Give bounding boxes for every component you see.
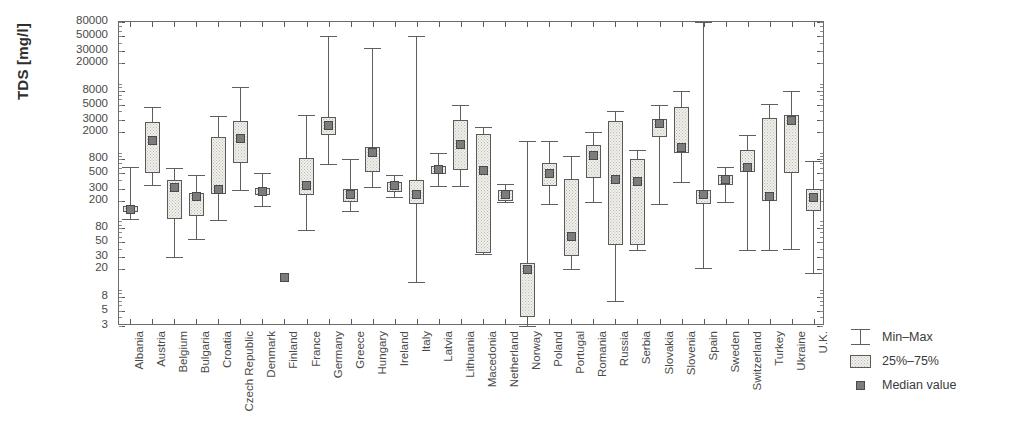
median-marker xyxy=(236,134,245,143)
box-plot-item[interactable] xyxy=(318,22,340,324)
median-marker xyxy=(324,121,333,130)
whisker-cap-min xyxy=(452,186,469,187)
box-plot-item[interactable] xyxy=(362,22,384,324)
x-tick-mark xyxy=(792,319,793,324)
box-plot-item[interactable] xyxy=(141,22,163,324)
box-plot-item[interactable] xyxy=(516,22,538,324)
x-tick-label: Ukraine xyxy=(796,331,808,371)
x-tick-label: Latvia xyxy=(443,331,455,362)
box-plot-item[interactable] xyxy=(737,22,759,324)
x-tick-mark xyxy=(814,319,815,324)
x-tick-label: Spain xyxy=(708,331,720,360)
box-plot-item[interactable] xyxy=(538,22,560,324)
legend-label-min-max: Min–Max xyxy=(882,330,933,344)
x-tick-mark xyxy=(549,319,550,324)
y-tick-label: 8 xyxy=(102,290,108,302)
box-plot-item[interactable] xyxy=(384,22,406,324)
legend-item-min-max: Min–Max xyxy=(848,325,1008,349)
x-tick-mark xyxy=(307,319,308,324)
box-plot-item[interactable] xyxy=(450,22,472,324)
whisker-cap-min xyxy=(497,202,514,203)
x-tick-mark xyxy=(726,319,727,324)
y-tick-label: 800 xyxy=(89,153,108,165)
whisker-cap-max xyxy=(607,111,624,112)
whisker-cap-max xyxy=(408,36,425,37)
median-marker xyxy=(809,193,818,202)
y-tick-label: 80 xyxy=(95,221,108,233)
quartile-box-icon xyxy=(848,351,874,371)
x-tick-label: Denmark xyxy=(266,331,278,378)
box-plot-item[interactable] xyxy=(229,22,251,324)
box-plot-item[interactable] xyxy=(185,22,207,324)
whisker-cap-min xyxy=(651,204,668,205)
box-plot-item[interactable] xyxy=(604,22,626,324)
box-plot-item[interactable] xyxy=(163,22,185,324)
whisker-cap-max xyxy=(122,167,139,168)
box-plot-item[interactable] xyxy=(759,22,781,324)
box-plot-item[interactable] xyxy=(671,22,693,324)
x-tick-mark xyxy=(483,319,484,324)
whisker-cap-max xyxy=(651,105,668,106)
box-plot-item[interactable] xyxy=(494,22,516,324)
x-tick-mark-top xyxy=(174,22,175,27)
x-tick-mark-top xyxy=(373,22,374,27)
x-tick-label: Croatia xyxy=(222,331,234,368)
box-plot-item[interactable] xyxy=(781,22,803,324)
x-tick-mark-top xyxy=(792,22,793,27)
whisker-cap-max xyxy=(585,132,602,133)
x-tick-mark-top xyxy=(770,22,771,27)
x-tick-mark-top xyxy=(505,22,506,27)
x-tick-mark xyxy=(395,319,396,324)
box-plot-item[interactable] xyxy=(715,22,737,324)
x-tick-mark-top xyxy=(571,22,572,27)
x-tick-mark-top xyxy=(593,22,594,27)
box-plot-item[interactable] xyxy=(251,22,273,324)
x-tick-mark xyxy=(130,319,131,324)
box-plot-item[interactable] xyxy=(472,22,494,324)
median-marker xyxy=(589,151,598,160)
x-tick-mark-top xyxy=(307,22,308,27)
x-tick-mark xyxy=(196,319,197,324)
whisker-cap-min xyxy=(144,185,161,186)
box-plot-item[interactable] xyxy=(273,22,295,324)
x-tick-label: Albania xyxy=(134,331,146,369)
whisker-cap-max xyxy=(320,36,337,37)
x-tick-mark xyxy=(439,319,440,324)
x-tick-label: Romania xyxy=(597,331,609,377)
x-tick-label: Sweden xyxy=(730,331,742,373)
x-tick-mark-top xyxy=(240,22,241,27)
whisker-cap-max xyxy=(254,173,271,174)
legend-label-quartiles: 25%–75% xyxy=(882,354,939,368)
box-plot-item[interactable] xyxy=(803,22,825,324)
box-plot-item[interactable] xyxy=(582,22,604,324)
box-plot-item[interactable] xyxy=(340,22,362,324)
whisker-cap-max xyxy=(563,156,580,157)
x-tick-mark xyxy=(527,319,528,324)
whisker-cap-max xyxy=(452,105,469,106)
x-tick-mark xyxy=(373,319,374,324)
box-plot-item[interactable] xyxy=(693,22,715,324)
x-tick-mark xyxy=(152,319,153,324)
box-plot-item[interactable] xyxy=(649,22,671,324)
x-tick-mark-top xyxy=(351,22,352,27)
median-marker xyxy=(456,140,465,149)
box-plot-item[interactable] xyxy=(406,22,428,324)
whisker-cap-max xyxy=(783,91,800,92)
y-tick-label: 20 xyxy=(95,263,108,275)
whisker-cap-max xyxy=(739,135,756,136)
whisker-cap-min xyxy=(386,197,403,198)
box-plot-item[interactable] xyxy=(296,22,318,324)
whisker-cap-max xyxy=(342,159,359,160)
x-tick-mark-top xyxy=(748,22,749,27)
x-tick-label: Poland xyxy=(553,331,565,367)
box-plot-item[interactable] xyxy=(428,22,450,324)
box-plot-item[interactable] xyxy=(626,22,648,324)
box-plot-item[interactable] xyxy=(119,22,141,324)
whisker-cap-max xyxy=(386,175,403,176)
x-tick-mark xyxy=(417,319,418,324)
y-tick-label: 3000 xyxy=(82,113,108,125)
median-marker xyxy=(148,136,157,145)
x-tick-mark-top xyxy=(615,22,616,27)
box-plot-item[interactable] xyxy=(560,22,582,324)
box-plot-item[interactable] xyxy=(207,22,229,324)
